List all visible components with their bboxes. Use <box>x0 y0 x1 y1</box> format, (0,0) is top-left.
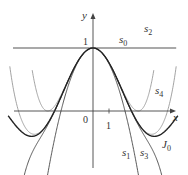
label-s4: s4 <box>155 84 163 99</box>
label-s0: s0 <box>119 33 127 48</box>
label-s3: s3 <box>140 146 148 161</box>
y-axis-arrow-icon <box>91 13 96 19</box>
x-tick-label: 1 <box>106 120 111 131</box>
y-axis-label: y <box>81 9 87 21</box>
bessel-taylor-diagram: y x 0 1 1 s0 s2 s4 J0 s1 s3 <box>0 0 188 175</box>
label-s1: s1 <box>122 146 130 161</box>
label-s2: s2 <box>144 22 152 37</box>
y-tick-label: 1 <box>83 36 88 47</box>
label-J0: J0 <box>162 138 171 153</box>
x-axis-label: x <box>172 111 178 123</box>
origin-label: 0 <box>83 114 88 125</box>
